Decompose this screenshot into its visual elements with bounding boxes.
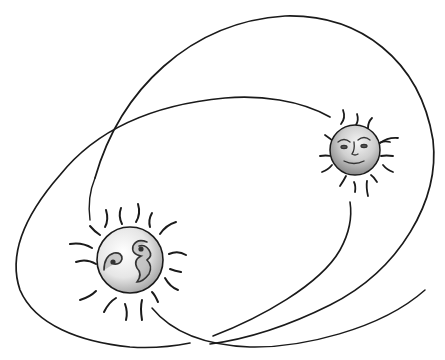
sun-disc — [330, 125, 380, 175]
binary-star-illustration — [0, 0, 445, 360]
outer-orbit — [89, 16, 434, 344]
small-sun — [320, 110, 398, 196]
large-sun — [70, 204, 186, 320]
